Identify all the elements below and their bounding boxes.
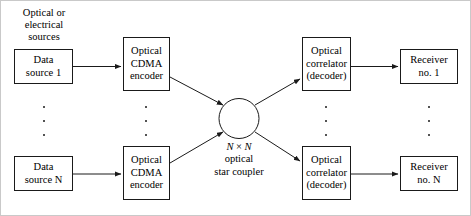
connector-encoder1-to-coupler	[170, 77, 223, 105]
ellipsis-data-sources	[39, 106, 49, 136]
ellipsis-dot	[43, 120, 45, 122]
correlator-1-line-3: (decoder)	[306, 70, 346, 83]
node-data-source-n[interactable]: Data source N	[14, 156, 73, 191]
encoder-1-line-1: Optical	[131, 45, 162, 58]
correlator-1-line-1: Optical	[311, 45, 342, 58]
receiver-1-line-2: no. 1	[419, 67, 440, 80]
encoder-1-line-3: encoder	[130, 70, 163, 83]
data-source-1-line-2: source 1	[26, 67, 61, 80]
star-coupler-label-line-3: star coupler	[214, 166, 263, 177]
encoder-n-line-3: encoder	[130, 179, 163, 192]
ellipsis-dot	[145, 134, 147, 136]
encoder-n-line-2: CDMA	[131, 167, 163, 180]
ellipsis-dot	[325, 106, 327, 108]
encoder-1-line-2: CDMA	[131, 58, 163, 71]
ellipsis-dot	[145, 120, 147, 122]
optical-cdma-network-diagram: Optical or electrical sources Data sourc…	[0, 0, 471, 216]
correlator-n-line-3: (decoder)	[306, 179, 346, 192]
node-optical-cdma-encoder-1[interactable]: Optical CDMA encoder	[123, 37, 170, 91]
connector-coupler-to-correlator1	[255, 79, 300, 105]
ellipsis-dot	[428, 134, 430, 136]
star-coupler-n-right: N	[245, 141, 252, 152]
ellipsis-dot	[428, 120, 430, 122]
sources-caption: Optical or electrical sources	[14, 7, 74, 44]
star-coupler-operator: ×	[233, 141, 244, 152]
ellipsis-receivers	[424, 106, 434, 136]
node-optical-correlator-1[interactable]: Optical correlator (decoder)	[302, 37, 351, 91]
node-receiver-1[interactable]: Receiver no. 1	[400, 49, 458, 84]
ellipsis-dot	[325, 120, 327, 122]
correlator-1-line-2: correlator	[306, 58, 347, 71]
node-optical-cdma-encoder-n[interactable]: Optical CDMA encoder	[123, 146, 170, 200]
ellipsis-dot	[43, 106, 45, 108]
ellipsis-dot	[428, 106, 430, 108]
encoder-n-line-1: Optical	[131, 154, 162, 167]
ellipsis-encoders	[141, 106, 151, 136]
node-data-source-1[interactable]: Data source 1	[14, 49, 73, 84]
data-source-n-line-1: Data	[34, 161, 54, 174]
star-coupler-label-line-2: optical	[225, 153, 254, 164]
ellipsis-dot	[145, 106, 147, 108]
star-coupler-circle	[219, 99, 259, 139]
ellipsis-dot	[325, 134, 327, 136]
receiver-n-line-1: Receiver	[410, 161, 447, 174]
data-source-n-line-2: source N	[25, 174, 63, 187]
star-coupler-dimension: N × N	[226, 141, 251, 152]
ellipsis-correlators	[321, 106, 331, 136]
ellipsis-dot	[43, 134, 45, 136]
node-optical-correlator-n[interactable]: Optical correlator (decoder)	[302, 146, 351, 200]
receiver-1-line-1: Receiver	[410, 54, 447, 67]
sources-caption-line-1: Optical or	[23, 7, 65, 18]
node-receiver-n[interactable]: Receiver no. N	[400, 156, 458, 191]
receiver-n-line-2: no. N	[417, 174, 440, 187]
correlator-n-line-2: correlator	[306, 167, 347, 180]
data-source-1-line-1: Data	[34, 54, 54, 67]
correlator-n-line-1: Optical	[311, 154, 342, 167]
star-coupler-label: N × N optical star coupler	[194, 141, 284, 178]
sources-caption-line-3: sources	[28, 31, 60, 42]
sources-caption-line-2: electrical	[25, 19, 63, 30]
